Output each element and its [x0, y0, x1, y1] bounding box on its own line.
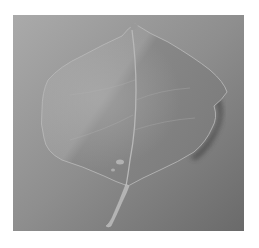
- leaf-photo: [13, 15, 244, 231]
